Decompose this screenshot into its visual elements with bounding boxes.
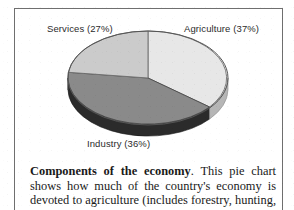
pie-slice-services xyxy=(68,31,148,78)
figure-caption-title: Components of the economy xyxy=(30,164,191,178)
figure-caption: Components of the economy. This pie char… xyxy=(30,164,276,210)
pie-label-services: Services (27%) xyxy=(47,23,113,34)
pie-chart: Services (27%) Agriculture (37%) Industr… xyxy=(14,8,283,148)
pie-label-industry: Industry (36%) xyxy=(87,138,150,149)
pie-label-agriculture: Agriculture (37%) xyxy=(184,23,259,34)
figure-root: Services (27%) Agriculture (37%) Industr… xyxy=(0,0,294,210)
